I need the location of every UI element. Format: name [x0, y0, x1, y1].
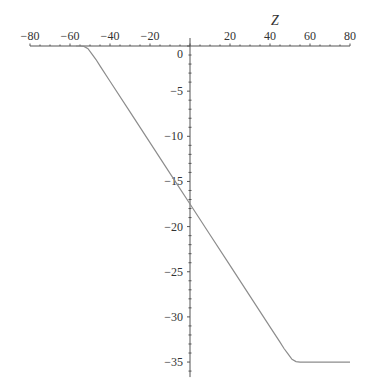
y-tick-label: 0 — [177, 47, 183, 61]
x-tick-label: −40 — [101, 29, 120, 43]
x-tick-label: 40 — [264, 29, 276, 43]
y-axis: 0−5−10−15−20−25−30−35 — [164, 38, 191, 377]
y-tick-label: −25 — [164, 265, 183, 279]
x-tick-label: 20 — [224, 29, 236, 43]
series-line — [76, 46, 350, 362]
x-axis-title: Z — [271, 13, 279, 28]
y-tick-label: −35 — [164, 355, 183, 369]
x-tick-label: −20 — [141, 29, 160, 43]
x-tick-label: −80 — [21, 29, 40, 43]
y-tick-label: −20 — [164, 220, 183, 234]
series-layer — [76, 46, 350, 362]
chart: −80−60−40−2020406080 0−5−10−15−20−25−30−… — [0, 0, 375, 387]
y-tick-label: −5 — [170, 84, 183, 98]
y-tick-label: −30 — [164, 310, 183, 324]
y-tick-label: −10 — [164, 129, 183, 143]
y-tick-label: −15 — [164, 174, 183, 188]
x-tick-label: 60 — [304, 29, 316, 43]
x-tick-label: −60 — [61, 29, 80, 43]
x-axis: −80−60−40−2020406080 — [21, 29, 356, 46]
x-tick-label: 80 — [344, 29, 356, 43]
